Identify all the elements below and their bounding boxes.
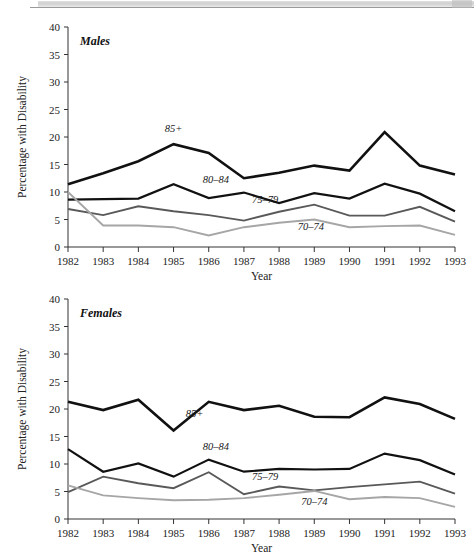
line-chart-males: 0510152025303540198219831984198519861987… xyxy=(0,14,474,280)
x-tick-label: 1988 xyxy=(268,527,291,539)
series-annotation: 70–74 xyxy=(298,221,325,232)
x-tick-label: 1991 xyxy=(374,527,396,539)
series-line-75-79 xyxy=(68,205,455,222)
y-tick-label: 5 xyxy=(55,214,61,226)
y-tick-label: 30 xyxy=(49,76,61,88)
x-axis-title: Year xyxy=(251,542,272,552)
y-tick-label: 0 xyxy=(55,241,61,253)
chart-panel-females: 0510152025303540198219831984198519861987… xyxy=(0,286,474,552)
x-tick-label: 1990 xyxy=(338,527,361,539)
x-tick-label: 1982 xyxy=(57,527,79,539)
series-annotation: 85+ xyxy=(186,408,204,419)
y-axis-ticks: 0510152025303540 xyxy=(49,21,68,253)
y-tick-label: 35 xyxy=(49,49,61,61)
y-tick-label: 25 xyxy=(49,104,61,116)
series-annotation: 80–84 xyxy=(203,174,230,185)
y-tick-label: 40 xyxy=(49,293,61,305)
x-tick-label: 1985 xyxy=(163,255,186,267)
y-tick-label: 20 xyxy=(49,131,61,143)
y-tick-label: 15 xyxy=(49,431,61,443)
series-annotation: 80–84 xyxy=(203,441,230,452)
x-tick-label: 1984 xyxy=(127,527,150,539)
x-tick-label: 1987 xyxy=(233,255,256,267)
x-tick-label: 1982 xyxy=(57,255,79,267)
y-tick-label: 10 xyxy=(49,186,61,198)
line-chart-females: 0510152025303540198219831984198519861987… xyxy=(0,286,474,552)
series-line-70-74 xyxy=(68,485,455,506)
chart-axes xyxy=(68,27,455,247)
x-tick-label: 1986 xyxy=(198,255,221,267)
y-tick-label: 15 xyxy=(49,159,61,171)
y-tick-label: 40 xyxy=(49,21,61,33)
x-tick-label: 1984 xyxy=(127,255,150,267)
x-tick-label: 1989 xyxy=(303,527,326,539)
page-scan-artifact xyxy=(0,0,474,12)
y-axis-ticks: 0510152025303540 xyxy=(49,293,68,525)
y-tick-label: 10 xyxy=(49,458,61,470)
y-axis-title: Percentage with Disability xyxy=(16,348,29,470)
series-annotation: 75–79 xyxy=(252,471,279,482)
x-tick-label: 1983 xyxy=(92,255,115,267)
x-tick-label: 1992 xyxy=(409,527,431,539)
x-tick-label: 1990 xyxy=(338,255,361,267)
series-line-85plus xyxy=(68,397,455,430)
x-axis-ticks: 1982198319841985198619871988198919901991… xyxy=(57,247,467,267)
x-tick-label: 1987 xyxy=(233,527,256,539)
series-line-85plus xyxy=(68,132,455,184)
y-tick-label: 25 xyxy=(49,376,61,388)
y-tick-label: 5 xyxy=(55,486,61,498)
y-axis-title: Percentage with Disability xyxy=(16,76,29,198)
x-axis-title: Year xyxy=(251,270,272,280)
x-tick-label: 1992 xyxy=(409,255,431,267)
y-tick-label: 30 xyxy=(49,348,61,360)
x-tick-label: 1988 xyxy=(268,255,291,267)
x-tick-label: 1983 xyxy=(92,527,115,539)
panel-title-females: Females xyxy=(79,306,122,320)
y-tick-label: 35 xyxy=(49,321,61,333)
x-tick-label: 1993 xyxy=(444,527,467,539)
x-tick-label: 1993 xyxy=(444,255,467,267)
y-tick-label: 20 xyxy=(49,403,61,415)
series-annotation: 85+ xyxy=(165,123,183,134)
x-axis-ticks: 1982198319841985198619871988198919901991… xyxy=(57,519,467,539)
x-tick-label: 1989 xyxy=(303,255,326,267)
scan-horizontal-rule xyxy=(30,7,474,8)
x-tick-label: 1986 xyxy=(198,527,221,539)
series-annotation: 70–74 xyxy=(301,496,328,507)
x-tick-label: 1985 xyxy=(163,527,186,539)
series-annotation: 75–79 xyxy=(252,194,279,205)
chart-panel-males: 0510152025303540198219831984198519861987… xyxy=(0,14,474,280)
y-tick-label: 0 xyxy=(55,513,61,525)
panel-title-males: Males xyxy=(79,34,110,48)
scan-speck xyxy=(452,0,472,8)
x-tick-label: 1991 xyxy=(374,255,396,267)
